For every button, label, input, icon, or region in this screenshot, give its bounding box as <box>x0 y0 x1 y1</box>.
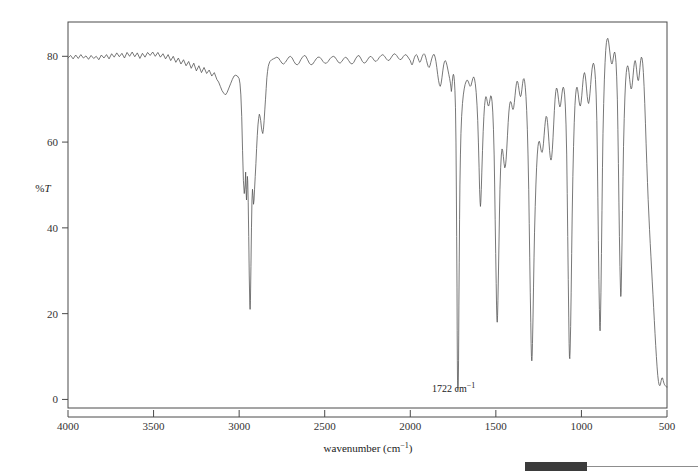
annotation-1722: 1722 cm−1 <box>432 381 475 394</box>
spectrum-curve <box>68 38 667 391</box>
plot-frame <box>68 22 667 417</box>
x-tick-label: 500 <box>659 420 676 432</box>
y-tick-label: 0 <box>53 393 59 405</box>
y-tick-label: 60 <box>47 136 59 148</box>
ir-spectrum-figure: 4000350030002500200015001000500020406080… <box>0 0 698 476</box>
page-footer-bar <box>525 462 587 471</box>
axis-ticks <box>62 56 667 417</box>
x-tick-label: 2500 <box>314 420 337 432</box>
x-axis-title: wavenumber (cm−1) <box>324 441 413 455</box>
y-tick-label: 40 <box>47 222 59 234</box>
spectrum-plot: 4000350030002500200015001000500020406080… <box>0 0 698 476</box>
x-tick-label: 1500 <box>485 420 508 432</box>
transmittance-trace <box>68 38 667 391</box>
axis-tick-labels: 4000350030002500200015001000500020406080 <box>47 50 676 432</box>
plot-box <box>68 22 667 408</box>
x-tick-label: 1000 <box>570 420 593 432</box>
x-tick-label: 2000 <box>399 420 422 432</box>
x-tick-label: 4000 <box>57 420 80 432</box>
x-tick-label: 3000 <box>228 420 251 432</box>
y-tick-label: 20 <box>47 308 59 320</box>
y-tick-label: 80 <box>47 50 59 62</box>
x-tick-label: 3500 <box>143 420 166 432</box>
page-footer-rule <box>587 466 698 467</box>
y-axis-title: %T <box>35 182 51 194</box>
